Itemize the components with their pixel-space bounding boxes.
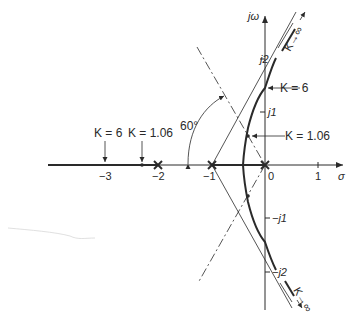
label-kinf-upper: K→∞	[281, 24, 304, 53]
tick-label-neg3: −3	[99, 170, 112, 182]
label-k6-real: K = 6	[94, 126, 123, 140]
sigma-label: σ	[338, 170, 345, 182]
tick-label-1: 1	[315, 170, 321, 182]
asymptote-lower	[212, 165, 292, 308]
k106-point-upper	[246, 134, 250, 138]
k106-point-lower	[246, 194, 250, 198]
angle-label: 60°	[180, 119, 198, 133]
tick-label-neg-j2: −j2	[272, 266, 287, 278]
label-kinf-lower: K→∞	[291, 285, 314, 314]
tick-label-0: 0	[268, 170, 274, 182]
jw-label: jω	[246, 10, 259, 22]
tick-label-j2: j2	[258, 53, 269, 65]
arrow-kinf-upper	[300, 12, 305, 20]
kinf-mark-lower-1	[280, 283, 292, 302]
root-locus-diagram: −3 −2 −1 0 1 σ jω j2 j1 −j1 −j2 60° K = …	[0, 0, 358, 333]
label-k106-imag: K = 1.06	[285, 129, 330, 143]
tick-label-neg1: −1	[203, 170, 216, 182]
tick-label-j1: j1	[266, 106, 277, 118]
k106-point-real	[140, 163, 144, 167]
label-k106-real: K = 1.06	[128, 126, 173, 140]
scan-artifact	[8, 228, 95, 239]
tick-label-neg2: −2	[152, 170, 165, 182]
tick-label-neg-j1: −j1	[272, 212, 287, 224]
label-k6-imag: K = 6	[280, 81, 309, 95]
